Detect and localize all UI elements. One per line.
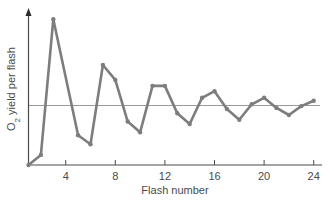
data-point-marker bbox=[163, 84, 167, 88]
chart-canvas: 4812162024 Flash number O2 yield per fla… bbox=[0, 0, 334, 204]
y-axis-title-suffix: yield per flash bbox=[5, 47, 17, 118]
data-point-marker bbox=[262, 96, 266, 100]
data-point-marker bbox=[299, 104, 303, 108]
data-point-marker bbox=[138, 130, 142, 134]
data-point-marker bbox=[274, 106, 278, 110]
data-point-marker bbox=[51, 17, 55, 21]
data-point-marker bbox=[175, 111, 179, 115]
x-tick-label: 24 bbox=[308, 170, 320, 182]
data-point-marker bbox=[88, 142, 92, 146]
data-point-marker bbox=[237, 118, 241, 122]
x-tick-label: 20 bbox=[258, 170, 270, 182]
data-point-marker bbox=[113, 78, 117, 82]
data-point-marker bbox=[150, 84, 154, 88]
data-point-marker bbox=[225, 107, 229, 111]
x-tick-label: 8 bbox=[112, 170, 118, 182]
data-point-marker bbox=[39, 153, 43, 157]
data-point-marker bbox=[126, 119, 130, 123]
data-point-marker bbox=[188, 122, 192, 126]
data-point-marker bbox=[200, 96, 204, 100]
chart: 4812162024 Flash number O2 yield per fla… bbox=[0, 0, 334, 204]
x-axis-ticks: 4812162024 bbox=[63, 160, 320, 182]
data-point-marker bbox=[250, 102, 254, 106]
data-point-marker bbox=[287, 113, 291, 117]
x-axis-title: Flash number bbox=[141, 184, 209, 196]
x-tick-label: 4 bbox=[63, 170, 69, 182]
data-series bbox=[26, 17, 316, 167]
o2-yield-line bbox=[29, 19, 314, 165]
data-point-marker bbox=[101, 63, 105, 67]
data-point-marker bbox=[312, 99, 316, 103]
data-point-marker bbox=[212, 89, 216, 93]
data-point-marker bbox=[76, 133, 80, 137]
y-axis-title: O2 yield per flash bbox=[5, 47, 22, 131]
data-point-marker bbox=[26, 163, 30, 167]
y-axis-arrow-icon bbox=[26, 8, 32, 16]
axes bbox=[26, 8, 323, 165]
x-tick-label: 12 bbox=[159, 170, 171, 182]
x-tick-label: 16 bbox=[208, 170, 220, 182]
